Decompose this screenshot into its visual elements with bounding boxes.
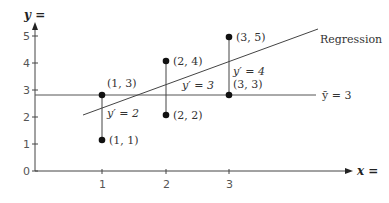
y-tick-2: 2 xyxy=(23,111,30,124)
x-ticks: 1 2 3 xyxy=(99,169,233,191)
x-tick-3: 3 xyxy=(226,178,233,191)
yprime-2: y′ = 3 xyxy=(181,79,214,92)
regression-line xyxy=(83,29,318,115)
y-tick-0: 0 xyxy=(23,165,30,178)
y-axis-label: y = xyxy=(23,8,45,22)
y-axis xyxy=(32,22,38,171)
point-2-2 xyxy=(163,112,170,119)
label-1-3: (1, 3) xyxy=(107,77,137,90)
yprime-1: y′ = 2 xyxy=(106,107,139,120)
y-tick-1: 1 xyxy=(23,138,30,151)
x-axis-label: x = xyxy=(356,164,378,178)
point-1-3 xyxy=(99,92,106,99)
regression-label: Regression xyxy=(320,33,382,46)
point-3-3 xyxy=(226,92,233,99)
x-tick-1: 1 xyxy=(99,178,106,191)
regression-diagram: 0 1 2 3 4 5 1 2 3 y = x = ȳ = 3 Regressi… xyxy=(0,0,389,203)
y-ticks: 0 1 2 3 4 5 xyxy=(23,30,38,178)
point-1-1 xyxy=(99,137,106,144)
yprime-3: y′ = 4 xyxy=(232,65,265,78)
label-2-4: (2, 4) xyxy=(173,55,203,68)
x-axis-arrow-icon xyxy=(345,168,353,174)
y-tick-4: 4 xyxy=(23,57,30,70)
x-axis xyxy=(35,168,353,174)
mean-line-label: ȳ = 3 xyxy=(321,89,351,102)
label-3-5: (3, 5) xyxy=(236,31,266,44)
y-tick-5: 5 xyxy=(23,30,30,43)
y-axis-arrow-icon xyxy=(32,22,38,30)
label-3-3: (3, 3) xyxy=(233,78,263,91)
label-1-1: (1, 1) xyxy=(109,134,139,147)
x-tick-2: 2 xyxy=(163,178,170,191)
point-2-4 xyxy=(163,58,170,65)
point-3-5 xyxy=(226,34,233,41)
y-tick-3: 3 xyxy=(23,84,30,97)
label-2-2: (2, 2) xyxy=(173,109,203,122)
